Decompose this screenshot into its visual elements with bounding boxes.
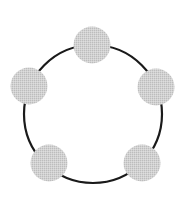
node-left [11, 68, 48, 105]
node-bottom-left [31, 145, 68, 182]
ring-topology-diagram [0, 0, 178, 197]
node-right [138, 69, 175, 106]
node-bottom-right [124, 145, 161, 182]
node-top [74, 27, 111, 64]
